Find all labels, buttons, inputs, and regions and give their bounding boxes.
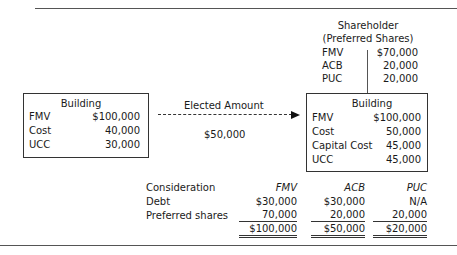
col-header-puc: PUC (407, 181, 427, 194)
col-header-fmv: FMV (276, 181, 297, 194)
col-header-acb: ACB (344, 181, 365, 194)
box-row: FMV $100,000 (312, 111, 421, 124)
consideration-header-label: Consideration (146, 181, 215, 194)
total-fmv: $100,000 (239, 223, 297, 238)
box-row: UCC 45,000 (312, 153, 421, 166)
row-label-preferred-shares: Preferred shares (146, 209, 228, 222)
box-row: UCC 30,000 (29, 138, 140, 151)
box-title: Building (14, 97, 148, 110)
shareholder-connector (367, 50, 368, 93)
cell: 70,000 (239, 209, 297, 222)
shareholder-row: FMV $70,000 (322, 46, 418, 59)
transferor-building-box: Building FMV $100,000 Cost 40,000 UCC 30… (23, 93, 149, 158)
cell: $30,000 (324, 195, 365, 208)
top-rule (35, 8, 457, 9)
box-row: Cost 40,000 (29, 124, 140, 137)
cell: $30,000 (256, 195, 297, 208)
dashed-arrow (158, 111, 300, 119)
total-puc: $20,000 (373, 223, 427, 238)
transferee-building-box: Building FMV $100,000 Cost 50,000 Capita… (306, 93, 428, 172)
box-row: Capital Cost 45,000 (312, 139, 421, 152)
cell: 20,000 (373, 209, 427, 222)
box-row: Cost 50,000 (312, 125, 421, 138)
dashed-line (158, 114, 292, 115)
elected-amount-value: $50,000 (204, 128, 245, 141)
shareholder-subtitle: (Preferred Shares) (318, 32, 418, 45)
shareholder-row: PUC 20,000 (322, 72, 418, 85)
cell: 20,000 (311, 209, 365, 222)
total-acb: $50,000 (311, 223, 365, 238)
cell: N/A (409, 195, 427, 208)
consideration-table: Consideration FMV ACB PUC Debt $30,000 $… (0, 181, 457, 241)
arrow-head-icon (291, 111, 300, 119)
bottom-rule (0, 245, 457, 246)
row-label-debt: Debt (146, 195, 170, 208)
shareholder-row: ACB 20,000 (322, 59, 418, 72)
box-title: Building (317, 97, 427, 110)
shareholder-block: Shareholder (Preferred Shares) FMV $70,0… (318, 19, 418, 89)
shareholder-title: Shareholder (318, 19, 418, 32)
box-row: FMV $100,000 (29, 110, 140, 123)
